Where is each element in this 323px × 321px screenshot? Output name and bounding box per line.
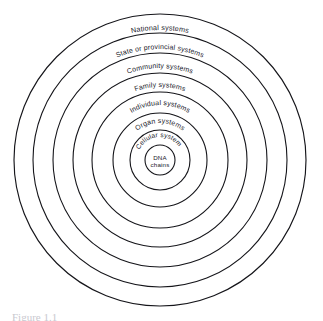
center-label-line-2: chains: [151, 161, 170, 168]
ring-label-family-systems: Family systems: [133, 81, 187, 92]
figure-caption-partial: Figure 1.1: [12, 312, 252, 321]
ring-label-text-cellular: Cellular systems: [0, 0, 184, 150]
ring-label-text-state: State or provincial systems: [115, 43, 205, 59]
center-label-line-1: DNA: [153, 154, 167, 161]
ring-label-text-individual: Individual systems: [128, 99, 192, 114]
center-label-dna-chains: DNA chains: [151, 154, 170, 168]
ring-labels-group: National systems State or provincial sys…: [0, 0, 205, 150]
ring-label-individual-systems: Individual systems: [128, 99, 192, 114]
ring-label-text-family: Family systems: [133, 81, 187, 92]
ring-label-state-or-provincial-systems: State or provincial systems: [115, 43, 205, 59]
ring-label-cellular-systems: Cellular systems: [0, 0, 184, 150]
